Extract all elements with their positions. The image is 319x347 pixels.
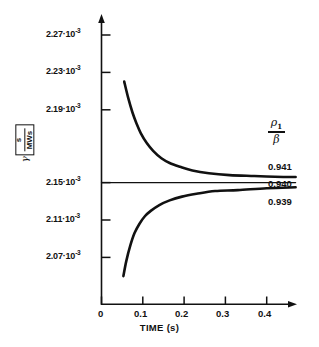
unit-bracket: s MWs: [15, 125, 34, 156]
y-tick-label-5: 2.07·10-3: [46, 251, 81, 261]
y-tick-label-1: 2.23·10-3: [46, 66, 81, 76]
legend-denominator: β: [273, 133, 279, 145]
series-label-0939: 0.939: [268, 196, 292, 207]
x-tick-label-4: 0.4: [258, 308, 271, 319]
x-tick-label-1: 0.1: [134, 308, 147, 319]
unit-denominator: MWs: [25, 129, 34, 152]
x-axis-ticks: [102, 297, 267, 305]
x-tick-label-3: 0.3: [216, 308, 229, 319]
y-axis-ticks: [102, 35, 111, 257]
x-tick-label-2: 0.2: [175, 308, 188, 319]
series-label-0940: 0.940: [268, 178, 292, 189]
unit-numerator: s: [15, 136, 24, 144]
y-axis-label: γ s MWs: [8, 112, 78, 184]
series-label-0941: 0.941: [268, 161, 292, 172]
x-tick-label-0: 0: [98, 308, 103, 319]
chart-figure: 2.27·10-3 2.23·10-3 2.19·10-3 2.15·10-3 …: [0, 0, 319, 347]
x-axis-label: TIME (s): [0, 322, 319, 333]
y-tick-label-4: 2.11·10-3: [46, 214, 80, 224]
gamma-symbol: γ: [19, 156, 30, 162]
y-tick-label-0: 2.27·10-3: [46, 29, 81, 39]
x-axis: [102, 301, 298, 308]
data-series-layer: [102, 82, 296, 276]
legend-numerator: ρ1: [271, 117, 282, 131]
y-axis: [98, 14, 105, 305]
legend-title: ρ1 β: [268, 117, 285, 145]
